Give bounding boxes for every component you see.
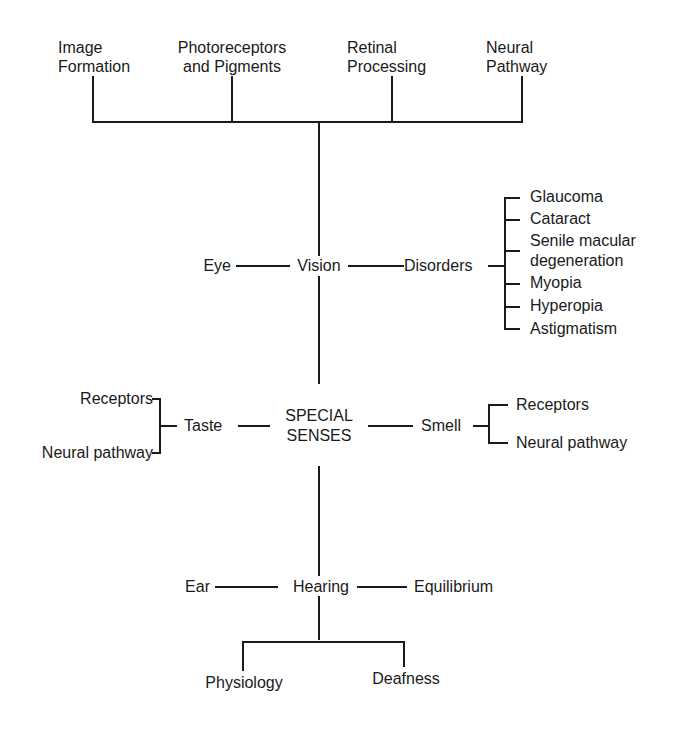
disorder-myopia: Myopia [530,273,582,292]
connector-line [231,76,233,123]
connector-line [92,76,94,123]
node-taste: Taste [184,416,222,435]
connector-line [236,265,290,267]
bracket-tick [504,250,520,252]
node-smell: Smell [421,416,461,435]
connector-line [215,586,278,588]
trunk-line [318,596,320,640]
trunk-line [318,121,320,256]
connector-line [391,76,393,123]
topic-image-formation: Image Formation [58,38,130,76]
connector-line [242,641,405,643]
node-vision: Vision [295,256,342,275]
disorder-senile-macular: Senile macular [530,231,636,250]
taste-receptors: Receptors [80,389,153,408]
bracket-line [504,197,506,330]
node-physiology: Physiology [205,673,282,692]
trunk-line [318,276,320,384]
bracket-line [488,404,490,444]
bracket-tick [504,306,520,308]
smell-neural-pathway: Neural pathway [516,433,627,452]
bracket-tick [504,283,520,285]
node-equilibrium: Equilibrium [414,577,493,596]
bracket-tick [488,404,508,406]
node-eye: Eye [203,256,231,275]
taste-neural-pathway: Neural pathway [42,443,153,462]
topic-retinal-processing: Retinal Processing [347,38,426,76]
connector-line [403,641,405,667]
connector-line [92,121,523,123]
disorder-glaucoma: Glaucoma [530,187,603,206]
bracket-tick [504,197,520,199]
connector-line [521,76,523,123]
smell-receptors: Receptors [516,395,589,414]
disorder-astigmatism: Astigmatism [530,319,617,338]
topic-photoreceptors: Photoreceptors and Pigments [178,38,287,76]
bracket-tick [488,442,508,444]
connector-line [473,425,489,427]
node-disorders: Disorders [404,256,472,275]
node-hearing: Hearing [293,577,349,596]
disorder-cataract: Cataract [530,209,590,228]
bracket-tick [504,328,520,330]
connector-line [357,586,407,588]
connector-line [159,425,177,427]
connector-line [238,425,270,427]
connector-line [348,265,404,267]
disorder-hyperopia: Hyperopia [530,296,603,315]
root-special-senses: SPECIAL SENSES [285,406,353,446]
topic-neural-pathway: Neural Pathway [486,38,547,76]
connector-line [368,425,413,427]
trunk-line [318,466,320,576]
bracket-tick [504,219,520,221]
connector-line [242,641,244,671]
disorder-degeneration: degeneration [530,251,623,270]
node-deafness: Deafness [372,669,440,688]
node-ear: Ear [185,577,210,596]
